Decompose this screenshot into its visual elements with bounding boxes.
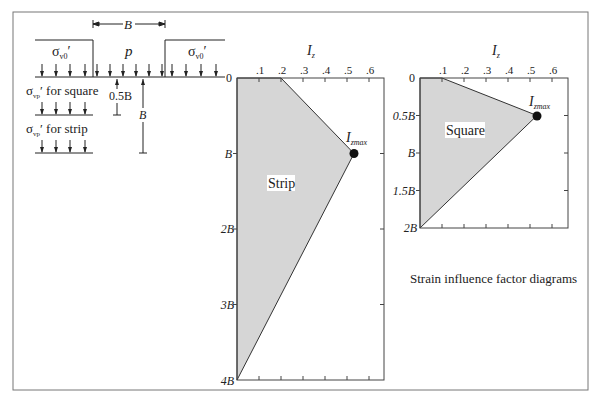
strip-stress-label: σvp′ for strip [26,121,88,138]
svg-text:.6: .6 [549,64,558,76]
depth-full-label: B [139,108,147,122]
strip-y-tick-labels: 0 B 2B 3B 4B [220,71,235,388]
pressure-label: p [124,43,133,59]
strip-peak-label: Izmax [345,130,368,147]
svg-text:B: B [408,146,416,160]
strip-peak-marker [350,149,359,158]
strip-influence-area [237,78,354,380]
svg-text:2B: 2B [221,222,235,236]
svg-text:.6: .6 [366,64,375,76]
square-chart: .1 .2 .3 .4 .5 .6 Iz 0 0.5B B 1.5B 2B Iz… [393,43,568,235]
overburden-right-label: σv0′ [188,44,207,61]
svg-text:.2: .2 [461,64,469,76]
svg-text:0: 0 [409,71,415,85]
svg-text:.3: .3 [300,64,309,76]
strip-x-axis-label: Iz [306,43,316,60]
square-stress-label: σvp′ for square [26,83,99,100]
square-x-axis-label: Iz [491,43,501,60]
svg-text:.1: .1 [256,64,264,76]
square-peak-marker [533,112,542,121]
width-label: B [124,17,132,32]
svg-text:.1: .1 [439,64,447,76]
svg-text:.5: .5 [344,64,353,76]
strip-x-tick-labels: .1 .2 .3 .4 .5 .6 [256,64,375,76]
svg-text:4B: 4B [221,374,235,388]
overburden-left-label: σv0′ [52,44,71,61]
strip-chart: .1 .2 .3 .4 .5 .6 Iz 0 B 2B 3B 4B Izmax … [220,43,384,388]
svg-text:1.5B: 1.5B [393,184,416,198]
svg-text:0: 0 [226,71,232,85]
square-peak-label: Izmax [528,94,551,111]
svg-text:.3: .3 [483,64,492,76]
svg-text:B: B [225,147,233,161]
strip-series-label: Strip [268,176,295,191]
svg-text:3B: 3B [220,298,235,312]
svg-text:.5: .5 [527,64,536,76]
square-influence-area [420,78,537,228]
svg-text:0.5B: 0.5B [393,109,416,123]
svg-text:2B: 2B [404,221,418,235]
svg-text:.4: .4 [322,64,331,76]
svg-text:.4: .4 [505,64,514,76]
square-series-label: Square [446,123,485,138]
depth-half-label: 0.5B [109,89,132,103]
svg-text:.2: .2 [278,64,286,76]
pressure-arrows [42,64,216,76]
figure-canvas: B p σv0′ σv0′ σvp′ for square σvp′ for s… [0,0,594,403]
square-y-tick-labels: 0 0.5B B 1.5B 2B [393,71,418,235]
figure-caption: Strain influence factor diagrams [410,271,577,286]
square-x-tick-labels: .1 .2 .3 .4 .5 .6 [439,64,558,76]
